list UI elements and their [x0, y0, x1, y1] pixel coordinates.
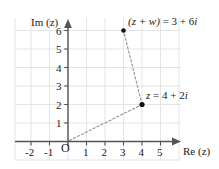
x-tick-label-neg1: -1 — [44, 147, 53, 158]
x-tick-label-3: 3 — [120, 147, 126, 158]
origin-label-text: O — [61, 141, 70, 155]
x-axis-title: Re (z) — [183, 146, 210, 157]
x-axis-title-text: Re (z) — [183, 145, 210, 157]
point-label-z: z = 4 + 2i — [146, 90, 188, 101]
origin-label: O — [61, 142, 70, 154]
y-axis — [64, 19, 72, 146]
y-tick-label-5: 5 — [56, 44, 62, 55]
x-tick-label-1: 1 — [83, 147, 89, 158]
y-tick-label-6: 6 — [56, 26, 62, 37]
y-tick-label-1: 1 — [56, 118, 62, 129]
y-tick-label-4: 4 — [56, 63, 62, 74]
y-axis-title-text: Im (z) — [31, 16, 58, 28]
y-tick-label-2: 2 — [56, 100, 62, 111]
x-tick-label-5: 5 — [157, 147, 163, 158]
point-label-z-plus-w-rhs: = 3 + 6 — [160, 15, 194, 27]
y-tick-label-3: 3 — [56, 81, 62, 92]
point-label-z-rhs: = 4 + 2 — [150, 89, 184, 101]
y-axis-title: Im (z) — [31, 17, 58, 28]
point-label-z-plus-w-unit: i — [194, 15, 197, 27]
x-tick-label-4: 4 — [139, 147, 145, 158]
argand-diagram-figure: Im (z) Re (z) O -2 -1 1 2 3 4 5 1 2 3 4 … — [0, 0, 219, 169]
point-label-z-plus-w: (z + w) = 3 + 6i — [128, 16, 197, 27]
x-tick-label-neg2: -2 — [25, 147, 34, 158]
point-label-z-plus-w-lhs: (z + w) — [128, 15, 160, 27]
x-tick-label-2: 2 — [102, 147, 108, 158]
point-label-z-unit: i — [185, 89, 188, 101]
x-axis — [15, 138, 181, 146]
